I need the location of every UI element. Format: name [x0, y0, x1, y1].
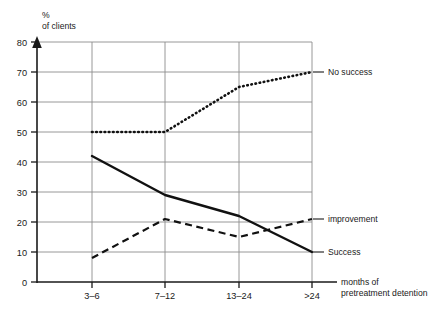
line-chart-figure: 80 70 60 50 40 30 20 10 0 3–6 7–12 13–24…: [0, 0, 432, 311]
x-tick-marks: [92, 282, 312, 288]
y-axis: [32, 36, 42, 283]
ytick-label-10: 10: [17, 248, 27, 258]
ytick-label-80: 80: [17, 38, 27, 48]
xtick-label-3-6: 3–6: [84, 291, 99, 301]
x-tick-labels: 3–6 7–12 13–24 >24: [84, 291, 319, 301]
series-label-improvement: improvement: [328, 214, 378, 224]
ytick-label-50: 50: [17, 128, 27, 138]
series-label-no-success: No success: [328, 67, 372, 77]
y-axis-title-line2: of clients: [42, 21, 76, 31]
ytick-label-70: 70: [17, 68, 27, 78]
y-tick-marks: [31, 42, 37, 282]
ytick-label-0: 0: [22, 278, 27, 288]
x-axis-title-line2: pretreatment detention: [341, 288, 428, 298]
y-tick-labels: 80 70 60 50 40 30 20 10 0: [17, 38, 27, 288]
ytick-label-30: 30: [17, 188, 27, 198]
xtick-label-7-12: 7–12: [155, 291, 175, 301]
x-axis-title-line1: months of: [341, 277, 379, 287]
x-axis-title: months of pretreatment detention: [341, 277, 428, 298]
xtick-label-over-24: >24: [304, 291, 320, 301]
ytick-label-20: 20: [17, 218, 27, 228]
xtick-label-13-24: 13–24: [226, 291, 252, 301]
series-label-leaders: [313, 72, 324, 252]
ytick-label-40: 40: [17, 158, 27, 168]
series-label-success: Success: [328, 247, 360, 257]
ytick-label-60: 60: [17, 98, 27, 108]
chart-canvas: 80 70 60 50 40 30 20 10 0 3–6 7–12 13–24…: [0, 0, 432, 311]
y-axis-title: % of clients: [42, 10, 76, 31]
series-labels: No success improvement Success: [328, 67, 378, 257]
y-axis-title-line1: %: [42, 10, 50, 20]
series-line-success: [92, 156, 312, 252]
